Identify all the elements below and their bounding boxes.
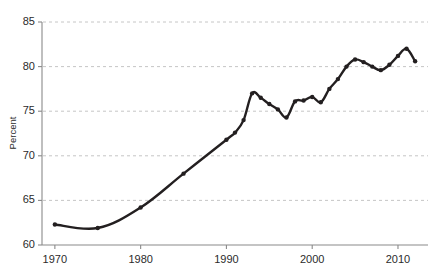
data-point-1990 bbox=[224, 138, 228, 142]
y-tick-label-60: 60 bbox=[23, 238, 35, 250]
y-tick-label-65: 65 bbox=[23, 193, 35, 205]
data-point-2003 bbox=[336, 77, 340, 81]
data-point-1985 bbox=[181, 171, 185, 175]
y-tick-label-80: 80 bbox=[23, 60, 35, 72]
series-line-percent bbox=[55, 49, 415, 229]
x-tick-label-1990: 1990 bbox=[214, 253, 238, 265]
y-axis-title: Percent bbox=[7, 116, 18, 149]
data-point-2002 bbox=[327, 87, 331, 91]
y-axis-tick-labels: 606570758085 bbox=[23, 15, 35, 250]
data-point-1980 bbox=[138, 205, 142, 209]
data-point-1995 bbox=[267, 102, 271, 106]
data-point-2000 bbox=[310, 95, 314, 99]
data-point-2008 bbox=[379, 68, 383, 72]
data-point-1993 bbox=[250, 91, 254, 95]
data-point-2010 bbox=[396, 54, 400, 58]
y-tick-label-75: 75 bbox=[23, 104, 35, 116]
data-point-1999 bbox=[301, 98, 305, 102]
data-point-2011 bbox=[404, 47, 408, 51]
x-tick-label-2000: 2000 bbox=[300, 253, 324, 265]
x-axis-tick-labels: 19701980199020002010 bbox=[43, 253, 411, 265]
y-tick-label-70: 70 bbox=[23, 149, 35, 161]
data-point-1970 bbox=[53, 222, 57, 226]
data-point-1997 bbox=[284, 115, 288, 119]
line-chart: 606570758085 19701980199020002010 Percen… bbox=[0, 0, 434, 275]
data-point-2006 bbox=[361, 60, 365, 64]
data-point-1992 bbox=[241, 118, 245, 122]
x-tick-label-1980: 1980 bbox=[128, 253, 152, 265]
data-point-1998 bbox=[293, 99, 297, 103]
grid-lines bbox=[43, 22, 428, 200]
data-point-2012 bbox=[413, 59, 417, 63]
y-tick-label-85: 85 bbox=[23, 15, 35, 27]
data-point-2005 bbox=[353, 57, 357, 61]
x-tick-label-2010: 2010 bbox=[386, 253, 410, 265]
data-point-2001 bbox=[319, 100, 323, 104]
chart-container: 606570758085 19701980199020002010 Percen… bbox=[0, 0, 434, 275]
data-point-1996 bbox=[276, 107, 280, 111]
data-point-2009 bbox=[387, 63, 391, 67]
series-percent bbox=[55, 49, 415, 229]
x-tick-label-1970: 1970 bbox=[43, 253, 67, 265]
data-point-2004 bbox=[344, 64, 348, 68]
data-point-2007 bbox=[370, 64, 374, 68]
data-point-1975 bbox=[96, 226, 100, 230]
data-point-1991 bbox=[233, 130, 237, 134]
series-markers bbox=[53, 47, 418, 231]
data-point-1994 bbox=[259, 96, 263, 100]
